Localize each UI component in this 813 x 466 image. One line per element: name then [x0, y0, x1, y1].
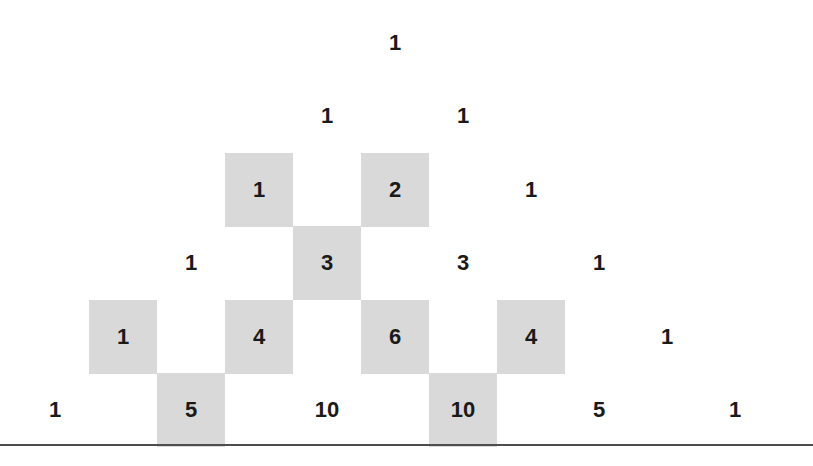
cell-value: 4	[253, 326, 265, 348]
triangle-cell: 5	[565, 373, 633, 447]
cell-value: 1	[593, 252, 605, 274]
cell-value: 1	[457, 105, 469, 127]
cell-value: 6	[389, 326, 401, 348]
triangle-cell: 1	[157, 226, 225, 300]
triangle-cell-shaded: 4	[497, 300, 565, 374]
triangle-cell: 1	[293, 79, 361, 153]
cell-value: 1	[729, 399, 741, 421]
cell-value: 3	[457, 252, 469, 274]
cell-value: 1	[185, 252, 197, 274]
triangle-cell-shaded: 4	[225, 300, 293, 374]
cell-value: 2	[389, 179, 401, 201]
cell-value: 1	[389, 32, 401, 54]
triangle-cell-shaded: 6	[361, 300, 429, 374]
triangle-cell: 1	[361, 6, 429, 80]
baseline-rule	[0, 444, 813, 446]
cell-value: 10	[451, 399, 475, 421]
triangle-cell: 1	[497, 153, 565, 227]
triangle-cell-shaded: 1	[225, 153, 293, 227]
cell-value: 1	[253, 179, 265, 201]
triangle-cell: 1	[21, 373, 89, 447]
cell-value: 1	[661, 326, 673, 348]
pascals-triangle-figure: 11112113311464115101051	[0, 0, 813, 466]
triangle-cell-shaded: 5	[157, 373, 225, 447]
triangle-cell-shaded: 3	[293, 226, 361, 300]
triangle-cell-shaded: 2	[361, 153, 429, 227]
triangle-cell-shaded: 10	[429, 373, 497, 447]
triangle-cell: 10	[293, 373, 361, 447]
cell-value: 1	[321, 105, 333, 127]
triangle-cell: 3	[429, 226, 497, 300]
cell-value: 5	[185, 399, 197, 421]
triangle-cell: 1	[429, 79, 497, 153]
cell-value: 3	[321, 252, 333, 274]
triangle-cell: 1	[565, 226, 633, 300]
cell-value: 4	[525, 326, 537, 348]
cell-value: 10	[315, 399, 339, 421]
cell-value: 1	[49, 399, 61, 421]
triangle-cell-shaded: 1	[89, 300, 157, 374]
cell-value: 1	[525, 179, 537, 201]
triangle-cell: 1	[701, 373, 769, 447]
cell-value: 1	[117, 326, 129, 348]
triangle-cell: 1	[633, 300, 701, 374]
cell-value: 5	[593, 399, 605, 421]
